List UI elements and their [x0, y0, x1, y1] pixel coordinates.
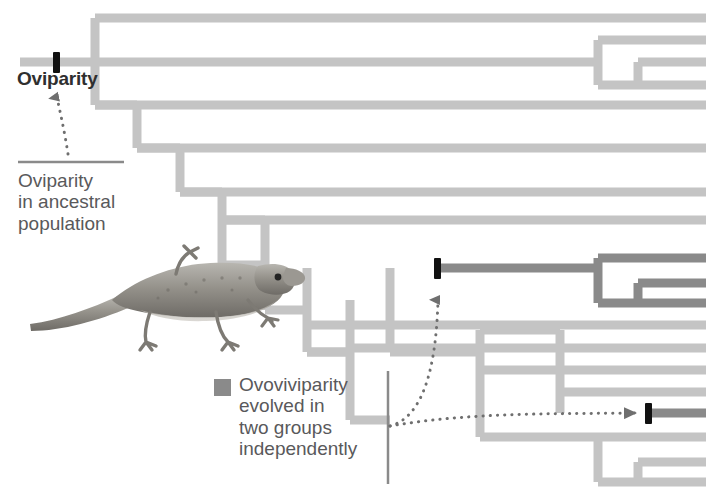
- ovoviviparity-arrow-lower: [390, 413, 636, 426]
- ancestral-note-line-1: Oviparity: [18, 170, 115, 191]
- legend-line-3: two groups: [239, 417, 357, 438]
- lizard-eye: [275, 274, 282, 281]
- ovoviviparity-arrow-upper: [390, 300, 438, 426]
- ancestral-note-arrow: [57, 97, 68, 154]
- legend-line-1: Ovoviviparity: [239, 374, 357, 395]
- oviparity-branches: [20, 18, 706, 482]
- ancestral-note-line-2: in ancestral: [18, 191, 115, 212]
- ancestral-note-line-3: population: [18, 213, 115, 234]
- legend-line-4: independently: [239, 438, 357, 459]
- legend-text: Ovoviviparity evolved in two groups inde…: [239, 374, 357, 459]
- ovoviviparity-origin-tick-lower: [645, 403, 652, 424]
- ancestral-population-note: Oviparity in ancestral population: [18, 170, 115, 234]
- ovoviviparity-origin-tick-upper: [434, 258, 441, 279]
- root-trait-label: Oviparity: [17, 68, 98, 89]
- lizard-snout: [283, 268, 305, 286]
- legend-color-swatch: [214, 379, 231, 396]
- figure-canvas: Oviparity Oviparity in ancestral populat…: [0, 0, 706, 497]
- lizard-rear-leg: [140, 312, 156, 350]
- legend-line-2: evolved in: [239, 395, 357, 416]
